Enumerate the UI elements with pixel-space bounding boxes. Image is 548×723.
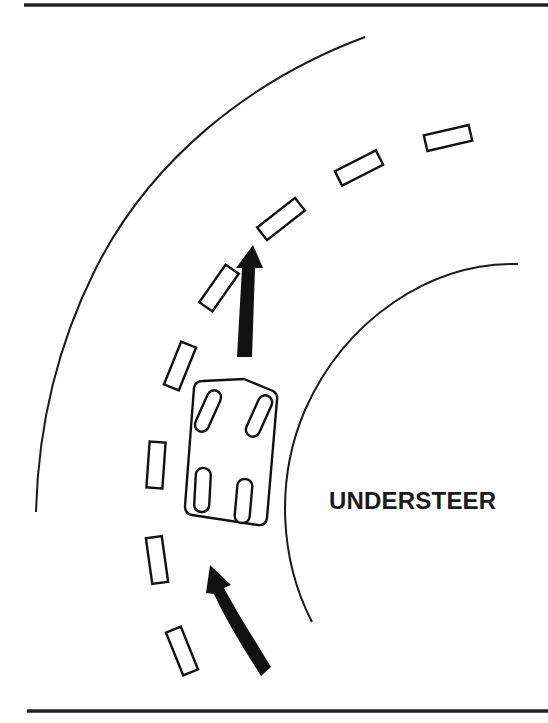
inner-road-edge xyxy=(285,264,518,622)
lane-dash xyxy=(335,150,383,185)
wheel-rear-left xyxy=(194,468,211,513)
wheel-rear-right xyxy=(234,478,253,523)
understeer-label: UNDERSTEER xyxy=(329,487,496,514)
lane-dash xyxy=(424,125,472,151)
lane-dash xyxy=(146,441,165,488)
understeer-diagram: UNDERSTEER xyxy=(0,0,548,723)
actual-path-arrow xyxy=(206,565,271,676)
lane-dash xyxy=(164,342,196,391)
car xyxy=(185,379,277,525)
lane-dash xyxy=(257,198,305,240)
lane-dash xyxy=(199,265,238,312)
lane-dash xyxy=(166,627,198,676)
lane-dash xyxy=(146,536,168,584)
steering-direction-arrow xyxy=(236,245,263,357)
